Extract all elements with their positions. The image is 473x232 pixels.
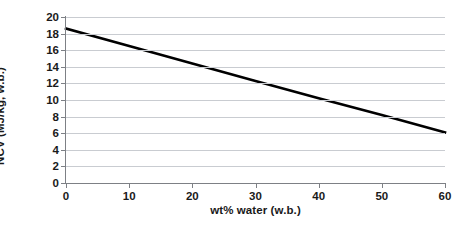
gridline-y [66,100,445,101]
gridline-y [66,166,445,167]
gridline-y [66,133,445,134]
gridline-y [66,83,445,84]
y-tick-label: 18 [0,28,66,40]
y-tick-label: 12 [0,77,66,89]
gridline-y [66,34,445,35]
y-tick-label: 4 [0,144,66,156]
gridline-y [66,17,445,18]
x-tick-label: 20 [172,190,212,202]
x-tick-label: 40 [299,190,339,202]
plot-area [66,17,445,183]
x-tick-mark [445,184,446,188]
gridline-y [66,50,445,51]
y-tick-label: 16 [0,44,66,56]
y-tick-label: 0 [0,177,66,189]
y-tick-label: 14 [0,61,66,73]
x-tick-mark [66,184,67,188]
chart-container: NCV (MJ/kg, w.b.) wt% water (w.b.) 02468… [0,0,473,232]
gridline-y [66,150,445,151]
x-tick-label: 50 [362,190,402,202]
gridline-y [66,117,445,118]
x-tick-mark [382,184,383,188]
x-tick-label: 30 [236,190,276,202]
x-tick-mark [129,184,130,188]
x-tick-label: 10 [109,190,149,202]
x-axis-title: wt% water (w.b.) [66,204,445,216]
y-tick-label: 2 [0,160,66,172]
x-tick-mark [192,184,193,188]
x-tick-mark [319,184,320,188]
y-tick-label: 10 [0,94,66,106]
y-tick-label: 20 [0,11,66,23]
gridline-y [66,67,445,68]
y-tick-label: 8 [0,111,66,123]
x-tick-mark [256,184,257,188]
y-tick-label: 6 [0,127,66,139]
x-tick-label: 60 [425,190,465,202]
x-tick-label: 0 [46,190,86,202]
